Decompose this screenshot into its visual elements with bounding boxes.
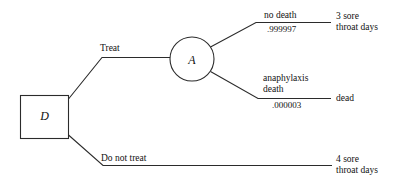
branch-label-treat: Treat — [100, 43, 120, 54]
branch-label-anaphylaxis-death-line1: anaphylaxis — [263, 73, 308, 84]
decision-node-rect[interactable] — [21, 96, 69, 139]
outcome-treat-dead: dead — [336, 93, 354, 104]
branch-probability-no-death: .999997 — [267, 24, 296, 34]
outcome-treat-dead-line1: dead — [336, 93, 354, 104]
outcome-no-treat-line2: throat days — [336, 165, 378, 176]
outcome-treat-survive-line1: 3 sore — [336, 11, 378, 22]
branch-label-do-not-treat: Do not treat — [101, 153, 146, 164]
outcome-treat-survive-line2: throat days — [336, 22, 378, 33]
edge-treat[interactable] — [69, 58, 171, 100]
chance-node-circle[interactable] — [170, 37, 214, 81]
branch-probability-anaphylaxis-death: .000003 — [272, 100, 301, 110]
outcome-no-treat-line1: 4 sore — [336, 154, 378, 165]
outcome-treat-survive: 3 sore throat days — [336, 11, 378, 33]
branch-label-anaphylaxis-death-line2: death — [263, 84, 284, 95]
branch-label-no-death: no death — [264, 10, 296, 21]
outcome-no-treat: 4 sore throat days — [336, 154, 378, 176]
decision-tree-diagram: D A Treat Do not treat no death .999997 … — [0, 0, 414, 188]
